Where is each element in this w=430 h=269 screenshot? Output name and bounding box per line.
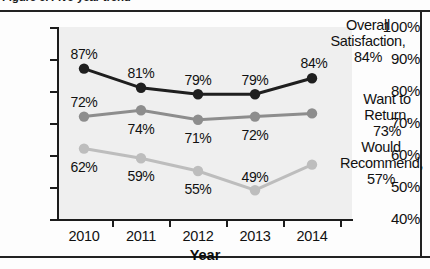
point-label: 72% (62, 94, 106, 110)
point-label: 55% (176, 181, 220, 197)
series-label-line: 57% (340, 171, 422, 187)
series-point-would-recommend (307, 159, 317, 169)
series-point-would-recommend (136, 153, 146, 163)
figure-caption: Figure 6. Five-year trend (0, 0, 430, 5)
series-label-would-recommend: Would Recommend, 57% (340, 139, 422, 188)
series-point-would-recommend (79, 143, 89, 153)
series-label-line: Overall (316, 17, 420, 33)
series-point-want-to-return (250, 111, 260, 121)
series-point-want-to-return (79, 111, 89, 121)
series-label-line: Would (340, 139, 422, 155)
series-label-line: Want to (352, 91, 422, 107)
series-label-line: Return, 73% (352, 107, 422, 139)
series-label-want-to-return: Want to Return, 73% (352, 91, 422, 140)
series-point-want-to-return (193, 115, 203, 125)
figure-caption-text: Figure 6. Five-year trend (0, 0, 430, 3)
point-label: 81% (119, 65, 163, 81)
point-label: 49% (233, 169, 277, 185)
series-point-overall-satisfaction (250, 89, 260, 99)
point-label: 79% (176, 72, 220, 88)
series-point-want-to-return (136, 105, 146, 115)
series-label-line: Recommend, (340, 155, 422, 171)
line-chart: 100% 90% 80% 70% 60% 50% 40% 2010 2011 2… (0, 11, 420, 256)
point-label: 79% (233, 72, 277, 88)
series-point-want-to-return (307, 108, 317, 118)
point-label: 62% (62, 159, 106, 175)
figure-page: Figure 6. Five-year trend 100% 90% 80% 7… (0, 0, 430, 269)
point-label: 87% (62, 46, 106, 62)
series-point-overall-satisfaction (307, 73, 317, 83)
series-label-overall-satisfaction: Overall Satisfaction, 84% (316, 17, 420, 66)
series-label-line: Satisfaction, (316, 33, 420, 49)
series-point-would-recommend (193, 166, 203, 176)
point-label: 74% (119, 121, 163, 137)
series-point-overall-satisfaction (136, 83, 146, 93)
series-point-overall-satisfaction (193, 89, 203, 99)
point-label: 59% (119, 168, 163, 184)
series-label-line: 84% (316, 49, 420, 65)
point-label: 71% (176, 130, 220, 146)
series-point-would-recommend (250, 185, 260, 195)
point-label: 72% (233, 127, 277, 143)
series-point-overall-satisfaction (79, 63, 89, 73)
